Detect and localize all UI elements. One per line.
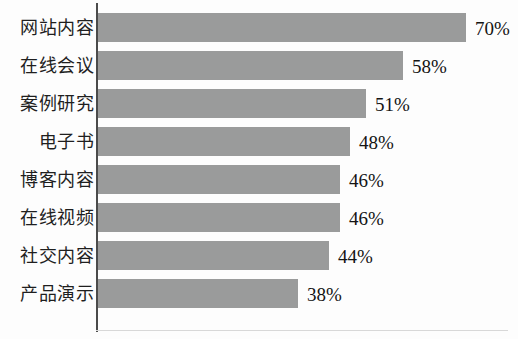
bar-row: 案例研究51% [0, 89, 518, 118]
bar [98, 51, 403, 80]
category-label: 电子书 [39, 133, 95, 151]
category-label: 产品演示 [20, 285, 94, 303]
bar-row: 社交内容44% [0, 241, 518, 270]
bar-row: 博客内容46% [0, 165, 518, 194]
horizontal-bar-chart: 网站内容70%在线会议58%案例研究51%电子书48%博客内容46%在线视频46… [0, 0, 518, 339]
category-label: 网站内容 [20, 19, 94, 37]
bar-value-label: 58% [412, 56, 447, 75]
bar [98, 203, 340, 232]
category-label: 案例研究 [20, 95, 94, 113]
bar-value-label: 38% [307, 284, 342, 303]
category-label: 社交内容 [20, 247, 94, 265]
bar-row: 在线会议58% [0, 51, 518, 80]
category-label: 在线会议 [20, 57, 94, 75]
bar-value-label: 48% [359, 132, 394, 151]
bar-row: 产品演示38% [0, 279, 518, 308]
bar-value-label: 46% [349, 170, 384, 189]
bar [98, 89, 366, 118]
bar-value-label: 51% [375, 94, 410, 113]
bar-row: 在线视频46% [0, 203, 518, 232]
bar [98, 241, 329, 270]
bar-row: 电子书48% [0, 127, 518, 156]
category-label: 在线视频 [20, 209, 94, 227]
value-axis-baseline [96, 330, 508, 331]
bar [98, 127, 350, 156]
bar-value-label: 46% [349, 208, 384, 227]
bar [98, 165, 340, 194]
bar [98, 279, 298, 308]
bar-value-label: 44% [338, 246, 373, 265]
bar-row: 网站内容70% [0, 13, 518, 42]
bar-value-label: 70% [475, 18, 510, 37]
bar [98, 13, 466, 42]
category-label: 博客内容 [20, 171, 94, 189]
